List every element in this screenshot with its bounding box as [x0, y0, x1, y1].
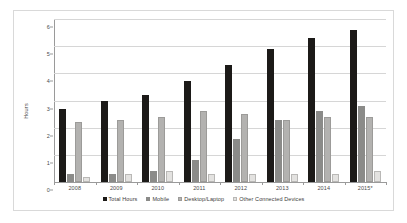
bar-group: [262, 19, 304, 182]
plot-area: [54, 19, 386, 182]
bar[interactable]: [150, 171, 157, 182]
y-axis-tick-mark: [50, 27, 53, 28]
x-axis-tick-label: 2011: [193, 185, 205, 191]
bar[interactable]: [358, 106, 365, 182]
legend-item[interactable]: Mobile: [146, 196, 169, 202]
x-axis-tick-label: 2008: [68, 185, 81, 191]
x-axis-tick-mark: [220, 182, 221, 185]
legend-item[interactable]: Total Hours: [103, 196, 138, 202]
chart-legend: Total HoursMobileDesktop/LaptopOther Con…: [14, 196, 393, 202]
x-axis-tick-mark: [54, 182, 55, 185]
y-axis-tick-label: 3: [34, 106, 50, 112]
x-axis-tick-mark: [179, 182, 180, 185]
x-axis-tick-mark: [137, 182, 138, 185]
bar[interactable]: [158, 117, 165, 182]
bar[interactable]: [283, 120, 290, 182]
legend-label: Total Hours: [109, 196, 138, 202]
legend-label: Desktop/Laptop: [184, 196, 224, 202]
legend-label: Mobile: [152, 196, 169, 202]
bar[interactable]: [350, 30, 357, 182]
bar[interactable]: [324, 117, 331, 182]
y-axis-tick-mark: [50, 108, 53, 109]
y-axis-title: Hours: [23, 103, 29, 119]
bar[interactable]: [332, 174, 339, 182]
bar-group: [96, 19, 138, 182]
legend-item[interactable]: Desktop/Laptop: [178, 196, 224, 202]
legend-item[interactable]: Other Connected Devices: [233, 196, 304, 202]
x-axis-tick-label: 2010: [151, 185, 164, 191]
x-axis-tick-label: 2015*: [358, 185, 373, 191]
y-axis-tick-mark: [50, 162, 53, 163]
y-axis-tick-label: 6: [34, 24, 50, 30]
y-axis-tick-label: 5: [34, 51, 50, 57]
bar-group: [179, 19, 221, 182]
y-axis-tick-label: 4: [34, 78, 50, 84]
chart-frame: Hours 0123456 20082009201020112012201320…: [13, 10, 394, 211]
y-axis-tick-mark: [50, 135, 53, 136]
bar[interactable]: [200, 111, 207, 182]
bar[interactable]: [67, 174, 74, 182]
y-axis-tick-label: 0: [34, 187, 50, 193]
x-axis-tick-mark: [96, 182, 97, 185]
bar-group: [345, 19, 387, 182]
bar[interactable]: [184, 81, 191, 182]
bar[interactable]: [117, 120, 124, 182]
y-axis-tick-mark: [50, 190, 53, 191]
bar-group: [54, 19, 96, 182]
x-axis-tick-label: 2009: [110, 185, 123, 191]
legend-swatch-icon: [103, 197, 107, 201]
legend-label: Other Connected Devices: [239, 196, 304, 202]
bar[interactable]: [308, 38, 315, 182]
y-axis-tick-mark: [50, 54, 53, 55]
x-axis-tick-mark: [345, 182, 346, 185]
bar[interactable]: [249, 174, 256, 182]
bar[interactable]: [125, 174, 132, 182]
y-axis-tick-label: 2: [34, 133, 50, 139]
bar[interactable]: [59, 109, 66, 182]
bar[interactable]: [374, 171, 381, 182]
bar[interactable]: [267, 49, 274, 182]
x-axis-tick-label: 2014: [317, 185, 330, 191]
x-axis-tick-label: 2013: [276, 185, 289, 191]
bar-group: [220, 19, 262, 182]
x-axis-tick-mark: [386, 182, 387, 185]
bar-group: [137, 19, 179, 182]
x-axis-tick-mark: [262, 182, 263, 185]
bar[interactable]: [225, 65, 232, 182]
bar[interactable]: [366, 117, 373, 182]
bar-group: [303, 19, 345, 182]
bar[interactable]: [241, 114, 248, 182]
bar[interactable]: [83, 177, 90, 182]
bar[interactable]: [166, 171, 173, 182]
y-axis-tick-mark: [50, 81, 53, 82]
legend-swatch-icon: [178, 197, 182, 201]
bar[interactable]: [142, 95, 149, 182]
bar[interactable]: [275, 120, 282, 182]
bar[interactable]: [316, 111, 323, 182]
bar[interactable]: [109, 174, 116, 182]
bar[interactable]: [233, 139, 240, 182]
y-axis-tick-labels: 0123456: [30, 19, 50, 182]
bar[interactable]: [75, 122, 82, 182]
legend-swatch-icon: [146, 197, 150, 201]
x-axis-tick-label: 2012: [234, 185, 247, 191]
bar[interactable]: [192, 160, 199, 182]
bar[interactable]: [291, 174, 298, 182]
x-axis-tick-mark: [303, 182, 304, 185]
bar[interactable]: [101, 101, 108, 183]
bar[interactable]: [208, 174, 215, 182]
legend-swatch-icon: [233, 197, 237, 201]
y-axis-tick-label: 1: [34, 160, 50, 166]
